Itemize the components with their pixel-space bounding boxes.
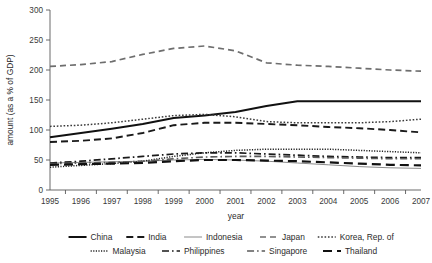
x-tick-label: 2000	[195, 197, 214, 206]
legend-label-singapore: Singapore	[269, 246, 308, 256]
legend-label-korea-rep-of: Korea, Rep. of	[340, 232, 395, 242]
x-tick-label: 2002	[257, 197, 276, 206]
chart-container: 050100150200250300 199519961997199819992…	[0, 0, 432, 263]
x-tick-label: 2006	[381, 197, 400, 206]
y-tick-label: 300	[29, 6, 43, 15]
y-axis-title: amount (as a % of GDP)	[5, 54, 15, 145]
series-line-china	[50, 101, 421, 137]
y-tick-label: 200	[29, 66, 43, 75]
x-tick-label: 2001	[226, 197, 245, 206]
x-tick-label: 1997	[103, 197, 122, 206]
series-line-india	[50, 123, 421, 142]
x-tick-label: 2004	[319, 197, 338, 206]
y-tick-label: 50	[34, 156, 44, 165]
line-chart: 050100150200250300 199519961997199819992…	[0, 0, 432, 263]
legend-label-malaysia: Malaysia	[113, 246, 146, 256]
y-axis-ticks	[46, 10, 50, 190]
legend-label-indonesia: Indonesia	[206, 232, 243, 242]
y-axis-tick-labels: 050100150200250300	[29, 6, 43, 195]
y-tick-label: 100	[29, 126, 43, 135]
x-axis-title: year	[228, 211, 245, 221]
x-tick-label: 1999	[165, 197, 184, 206]
x-tick-label: 2007	[412, 197, 431, 206]
x-tick-label: 1995	[41, 197, 60, 206]
x-tick-label: 2005	[350, 197, 369, 206]
series-line-korea-rep-of	[50, 114, 421, 126]
x-tick-label: 1996	[72, 197, 91, 206]
series-line-japan	[50, 46, 421, 71]
legend-label-india: India	[148, 232, 167, 242]
chart-legend: ChinaIndiaIndonesiaJapanKorea, Rep. ofMa…	[69, 232, 395, 256]
legend-label-china: China	[91, 232, 113, 242]
x-tick-label: 1998	[134, 197, 153, 206]
y-tick-label: 150	[29, 96, 43, 105]
y-tick-label: 250	[29, 36, 43, 45]
legend-label-thailand: Thailand	[345, 246, 377, 256]
series-lines	[50, 46, 421, 168]
x-tick-label: 2003	[288, 197, 307, 206]
y-tick-label: 0	[38, 186, 43, 195]
x-axis-ticks	[65, 190, 405, 194]
legend-label-philippines: Philippines	[184, 246, 225, 256]
x-axis-tick-labels: 1995199619971998199920002001200220032004…	[41, 197, 431, 206]
legend-label-japan: Japan	[282, 232, 305, 242]
